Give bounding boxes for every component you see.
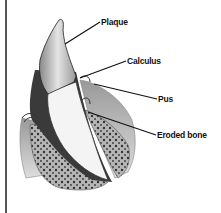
label-eroded-bone: Eroded bone [157,130,207,140]
label-calculus: Calculus [127,56,161,66]
label-plaque: Plaque [101,17,128,27]
label-pus: Pus [158,94,173,104]
tooth-crown [39,19,76,94]
plaque-leader [65,22,100,44]
tooth-illustration [0,0,221,213]
calculus-leader [80,61,126,78]
